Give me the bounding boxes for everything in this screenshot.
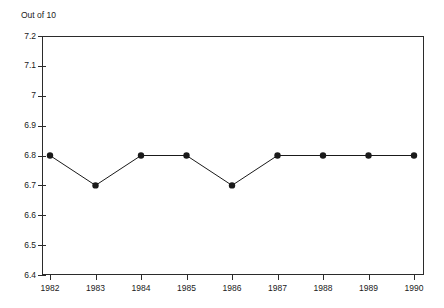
data-point-marker (183, 152, 189, 158)
data-point-marker (411, 152, 417, 158)
data-point-marker (320, 152, 326, 158)
data-point-marker (365, 152, 371, 158)
data-series-layer (0, 0, 444, 308)
data-point-marker (47, 152, 53, 158)
series-markers (47, 152, 417, 188)
data-point-marker (229, 182, 235, 188)
data-point-marker (138, 152, 144, 158)
line-chart-figure: Out of 10 7.27.176.96.86.76.66.56.4 1982… (0, 0, 444, 308)
data-point-marker (92, 182, 98, 188)
data-point-marker (274, 152, 280, 158)
series-line (50, 156, 414, 186)
